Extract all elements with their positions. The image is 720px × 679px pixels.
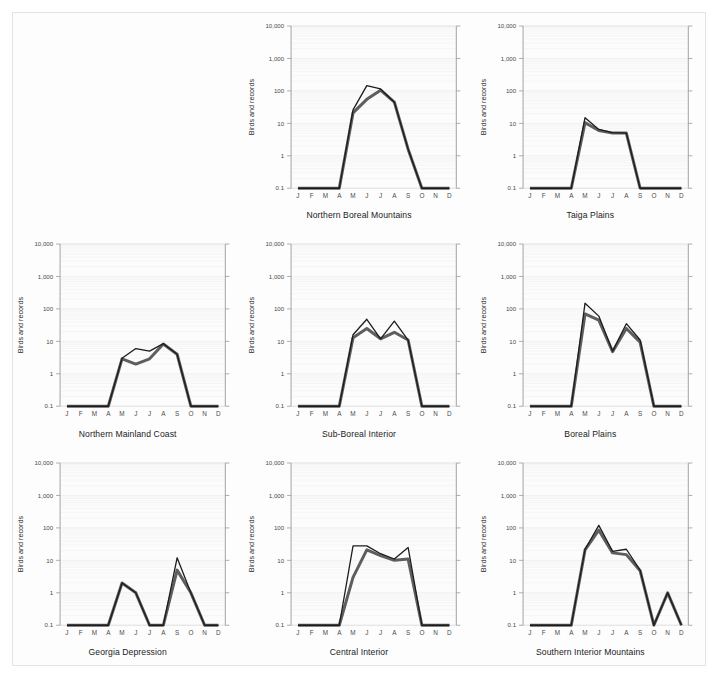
- x-tick-label: O: [420, 410, 425, 417]
- x-tick-label: D: [447, 192, 452, 199]
- y-tick-label: 1: [281, 152, 285, 159]
- x-tick-label: J: [597, 628, 600, 635]
- panel-northern-mainland-coast: 10,0001,0001001010.1Birds and recordsJFM…: [12, 230, 243, 448]
- y-tick-label: 10: [278, 556, 285, 563]
- y-tick-label: 1,000: [269, 273, 285, 280]
- y-tick-label: 10,000: [34, 459, 53, 466]
- x-tick-label: S: [175, 410, 179, 417]
- y-axis-title: Birds and records: [247, 297, 256, 354]
- panel-northern-boreal-mountains: 10,0001,0001001010.1Birds and recordsJFM…: [243, 12, 474, 230]
- plot-area: [291, 244, 456, 406]
- y-tick-label: 10: [46, 556, 53, 563]
- x-tick-label: M: [554, 628, 559, 635]
- panel-georgia-depression: 10,0001,0001001010.1Birds and recordsJFM…: [12, 449, 243, 667]
- x-tick-label: O: [420, 628, 425, 635]
- y-tick-label: 100: [506, 524, 517, 531]
- y-axis-title: Birds and records: [247, 515, 256, 572]
- x-tick-label: A: [337, 410, 342, 417]
- x-tick-label: A: [106, 410, 111, 417]
- x-tick-label: M: [323, 628, 328, 635]
- x-tick-label: D: [447, 628, 452, 635]
- panel-title: Sub-Boreal Interior: [243, 429, 474, 439]
- y-axis-title: Birds and records: [479, 297, 488, 354]
- x-tick-label: M: [582, 410, 587, 417]
- x-tick-label: M: [582, 628, 587, 635]
- x-tick-label: A: [337, 192, 342, 199]
- x-tick-label: A: [569, 628, 574, 635]
- x-tick-label: S: [406, 410, 410, 417]
- x-tick-label: F: [310, 628, 314, 635]
- x-tick-label: N: [434, 410, 439, 417]
- panel-title: Georgia Depression: [12, 647, 243, 657]
- x-tick-label: F: [310, 192, 314, 199]
- panel-southern-interior-mountains: 10,0001,0001001010.1Birds and recordsJFM…: [475, 449, 706, 667]
- x-tick-label: F: [79, 628, 83, 635]
- x-tick-label: A: [624, 628, 629, 635]
- x-tick-label: A: [337, 628, 342, 635]
- x-tick-label: J: [65, 628, 68, 635]
- x-tick-label: J: [379, 192, 382, 199]
- y-tick-label: 10,000: [266, 241, 285, 248]
- panel-empty-placeholder: [12, 12, 243, 230]
- x-tick-label: N: [665, 192, 670, 199]
- x-tick-label: M: [554, 192, 559, 199]
- y-tick-label: 1,000: [38, 491, 54, 498]
- x-tick-label: D: [679, 192, 684, 199]
- chart-4: 10,0001,0001001010.1Birds and recordsJFM…: [475, 230, 706, 448]
- panel-title: Boreal Plains: [475, 429, 706, 439]
- x-tick-label: A: [161, 410, 166, 417]
- y-tick-label: 100: [274, 87, 285, 94]
- x-tick-label: A: [393, 628, 398, 635]
- x-tick-label: S: [638, 410, 642, 417]
- panel-sub-boreal-interior: 10,0001,0001001010.1Birds and recordsJFM…: [243, 230, 474, 448]
- y-tick-label: 1: [50, 370, 54, 377]
- x-tick-label: J: [366, 628, 369, 635]
- x-tick-label: J: [134, 410, 137, 417]
- x-tick-label: S: [638, 628, 642, 635]
- panel-central-interior: 10,0001,0001001010.1Birds and recordsJFM…: [243, 449, 474, 667]
- x-axis-ticks: JFMAMJJASOND: [528, 410, 684, 417]
- y-tick-label: 1,000: [269, 55, 285, 62]
- y-tick-label: 0.1: [276, 403, 285, 410]
- x-tick-label: J: [597, 192, 600, 199]
- x-tick-label: N: [202, 628, 207, 635]
- y-tick-label: 0.1: [276, 184, 285, 191]
- x-tick-label: J: [65, 410, 68, 417]
- x-tick-label: J: [148, 628, 151, 635]
- y-tick-label: 1,000: [500, 491, 516, 498]
- x-tick-label: D: [447, 410, 452, 417]
- x-tick-label: N: [434, 192, 439, 199]
- x-tick-label: M: [323, 192, 328, 199]
- plot-area: [60, 463, 225, 625]
- plot-area: [291, 26, 456, 188]
- y-axis-title: Birds and records: [247, 79, 256, 136]
- x-tick-label: M: [554, 410, 559, 417]
- chart-5: 10,0001,0001001010.1Birds and recordsJFM…: [12, 449, 243, 667]
- x-tick-label: N: [434, 628, 439, 635]
- y-tick-label: 1,000: [269, 491, 285, 498]
- x-tick-label: O: [188, 628, 193, 635]
- x-tick-label: D: [679, 410, 684, 417]
- y-tick-label: 10: [509, 556, 516, 563]
- x-tick-label: J: [366, 192, 369, 199]
- chart-0: 10,0001,0001001010.1Birds and recordsJFM…: [243, 12, 474, 230]
- x-tick-label: J: [528, 410, 531, 417]
- y-tick-label: 1: [512, 370, 516, 377]
- panel-title: Central Interior: [243, 647, 474, 657]
- y-tick-label: 1,000: [38, 273, 54, 280]
- y-tick-label: 1: [512, 589, 516, 596]
- x-tick-label: F: [541, 628, 545, 635]
- x-tick-label: A: [624, 410, 629, 417]
- y-tick-label: 10: [46, 338, 53, 345]
- x-tick-label: J: [297, 410, 300, 417]
- y-tick-label: 1: [512, 152, 516, 159]
- plot-area: [523, 244, 688, 406]
- y-tick-label: 10: [278, 120, 285, 127]
- x-tick-label: M: [582, 192, 587, 199]
- y-tick-label: 1,000: [500, 273, 516, 280]
- y-tick-label: 0.1: [45, 621, 54, 628]
- y-axis-title: Birds and records: [16, 297, 25, 354]
- y-axis-title: Birds and records: [16, 515, 25, 572]
- plot-area: [291, 463, 456, 625]
- y-tick-label: 10,000: [266, 22, 285, 29]
